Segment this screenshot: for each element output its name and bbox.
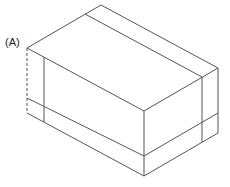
box-drawing — [0, 0, 230, 187]
right-band-line — [144, 113, 218, 156]
left-band-line — [27, 98, 144, 156]
right-bottom-edge — [144, 133, 218, 176]
left-bottom-edge — [27, 113, 144, 176]
top-face — [27, 5, 218, 111]
top-division-line — [85, 14, 202, 77]
